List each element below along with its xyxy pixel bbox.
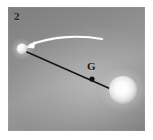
figure-graphics: [8, 7, 145, 131]
velocity-arrow-shaft: [30, 37, 102, 45]
barycenter-label: G: [87, 61, 96, 72]
barycenter-dot: [89, 76, 94, 81]
small-sphere: [17, 44, 28, 55]
figure-panel: 2 G: [8, 7, 145, 131]
figure-container: 2 G: [0, 0, 153, 140]
large-sphere: [109, 76, 137, 104]
panel-number-label: 2: [14, 11, 20, 22]
barycenter-axis-line: [24, 51, 122, 94]
